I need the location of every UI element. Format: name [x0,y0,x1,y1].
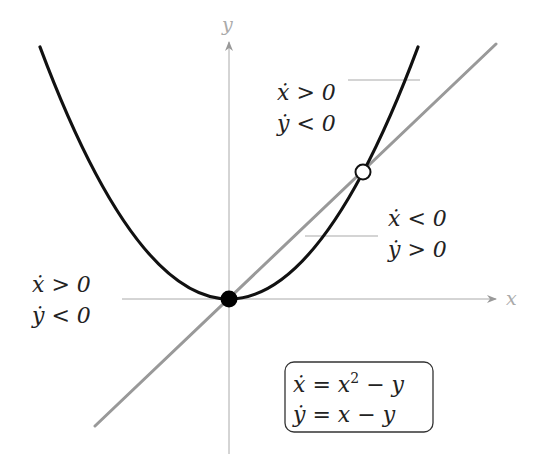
x-axis-label: x [506,287,517,309]
fixed-point-unit [356,165,371,180]
svg-text:ẏ < 0: ẏ < 0 [31,303,91,328]
eq1-lhs: ẋ [293,372,306,397]
eq2-lhs: ẏ [292,402,306,427]
phase-plane-diagram: x y ẋ > 0 ẏ < 0 ẋ < 0 ẏ > 0 ẋ > 0 ẏ < 0 … [0,0,541,470]
svg-text:ẋ < 0: ẋ < 0 [388,206,447,231]
fixed-point-origin [221,291,238,308]
svg-text:ẏ > 0: ẏ > 0 [387,237,447,262]
svg-text:ẋ > 0: ẋ > 0 [32,272,91,297]
region-label-left: ẋ > 0 ẏ < 0 [30,270,122,328]
svg-text:ẏ < 0: ẏ < 0 [276,111,336,136]
svg-text:ẋ > 0: ẋ > 0 [277,80,336,105]
region-label-middle-right: ẋ < 0 ẏ > 0 [387,206,447,262]
svg-text:ẋ = x2 − y: ẋ = x2 − y [293,370,405,397]
region-label-upper-right: ẋ > 0 ẏ < 0 [276,80,336,136]
system-equations-box: ẋ = x2 − y ẏ = x − y [285,362,433,432]
y-axis-label: y [221,13,233,35]
svg-text:ẏ = x − y: ẏ = x − y [292,402,396,427]
